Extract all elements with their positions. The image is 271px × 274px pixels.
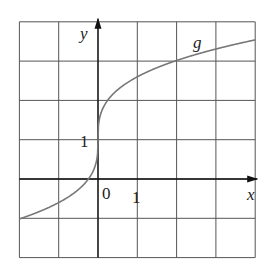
grid xyxy=(19,22,255,258)
graph: y x 0 1 1 g xyxy=(0,0,271,274)
curve-label-g: g xyxy=(193,33,202,52)
y-axis-label: y xyxy=(78,24,88,43)
origin-label: 0 xyxy=(102,184,111,203)
x-axis-label: x xyxy=(246,185,255,204)
x-tick-label-1: 1 xyxy=(132,188,141,207)
y-tick-label-1: 1 xyxy=(80,132,89,151)
axes xyxy=(19,18,258,258)
